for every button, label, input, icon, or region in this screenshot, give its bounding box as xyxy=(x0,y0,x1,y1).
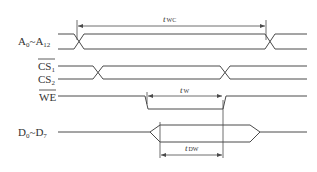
svg-text:D0~D7: D0~D7 xyxy=(18,126,47,140)
svg-text:A0~A12: A0~A12 xyxy=(18,35,51,49)
svg-text:WE: WE xyxy=(39,91,56,103)
tw-dimension: tW xyxy=(147,85,222,104)
address-bus-waveform xyxy=(58,34,307,49)
twc-dimension: tWC xyxy=(77,14,266,40)
tdw-label: tDW xyxy=(185,143,199,153)
svg-text:CS2: CS2 xyxy=(38,73,55,87)
cs1-label: CS1 xyxy=(38,59,55,74)
twc-label: tWC xyxy=(163,14,176,24)
cs2-label: CS2 xyxy=(38,73,55,87)
we-waveform xyxy=(58,96,307,109)
svg-text:CS1: CS1 xyxy=(38,60,55,74)
tw-label: tW xyxy=(180,85,190,95)
we-label: WE xyxy=(39,90,56,103)
cs-waveform xyxy=(58,66,307,79)
data-bus-label: D0~D7 xyxy=(18,126,47,140)
address-bus-label: A0~A12 xyxy=(18,35,51,49)
timing-diagram: A0~A12 tWC CS1 CS2 WE tW D0~D7 xyxy=(0,0,317,172)
data-bus-waveform xyxy=(58,125,307,142)
